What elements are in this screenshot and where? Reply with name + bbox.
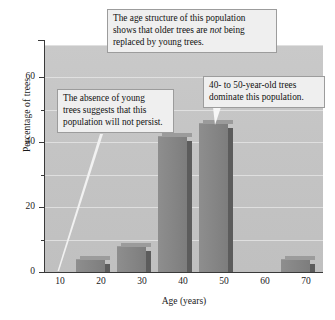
bar-40-side-face [187, 141, 192, 272]
y-tick-0 [39, 272, 44, 273]
y-axis-line [44, 40, 45, 273]
bar-30-side-face [146, 251, 151, 272]
x-tick-label-70: 70 [291, 277, 321, 287]
bar-50 [199, 123, 228, 272]
x-tick-label-10: 10 [45, 277, 75, 287]
bar-70-side-face [310, 264, 315, 272]
bar-20-side-face [105, 264, 110, 272]
bar-70 [281, 259, 310, 272]
annotation-left-callout: The absence of young trees suggests that… [57, 89, 174, 133]
bar-30 [117, 246, 146, 272]
y-tick-label-20: 20 [13, 202, 35, 212]
annotation-top-line2: shows that older trees are not being [113, 25, 271, 37]
bar-40 [158, 136, 187, 272]
x-tick-label-20: 20 [86, 277, 116, 287]
y-tick-10 [41, 240, 45, 241]
bar-50-side-face [228, 128, 233, 272]
y-tick-label-40: 40 [13, 137, 35, 147]
annotation-right-line2: dominate this population. [209, 92, 319, 104]
annotation-top-line3: replaced by young trees. [113, 37, 271, 49]
bar-20 [76, 259, 105, 272]
annotation-right-callout: 40- to 50-year-old trees dominate this p… [203, 76, 325, 108]
bar-20-top-face [80, 256, 110, 260]
annotation-left-line1: The absence of young [63, 93, 168, 105]
x-axis-title: Age (years) [45, 296, 323, 306]
figure-bar-chart-age-structure: Percentage of trees [0, 0, 335, 320]
x-tick-label-40: 40 [168, 277, 198, 287]
y-tick-20 [39, 207, 44, 208]
y-tick-60 [39, 77, 44, 78]
annotation-top-callout: The age structure of this population sho… [107, 9, 277, 53]
y-axis-title: Percentage of trees [22, 40, 32, 190]
y-tick-40 [39, 142, 44, 143]
annotation-top-line2-b: being [222, 25, 245, 35]
x-axis-line [44, 272, 323, 273]
annotation-top-line1: The age structure of this population [113, 13, 271, 25]
annotation-left-line2: trees suggests that this [63, 105, 168, 117]
annotation-right-line1: 40- to 50-year-old trees [209, 80, 319, 92]
x-tick-label-50: 50 [209, 277, 239, 287]
y-tick-30 [41, 175, 45, 176]
annotation-top-line2-a: shows that older trees are [113, 25, 210, 35]
y-tick-label-0: 0 [13, 267, 35, 277]
y-axis-top-cap [38, 40, 45, 41]
annotation-left-line3: population will not persist. [63, 117, 168, 129]
bar-40-top-face [162, 133, 192, 137]
bar-50-top-face [203, 120, 233, 124]
x-tick-label-30: 30 [127, 277, 157, 287]
x-tick-label-60: 60 [250, 277, 280, 287]
bar-70-top-face [285, 256, 315, 260]
y-tick-label-60: 60 [13, 72, 35, 82]
y-tick-50 [41, 110, 45, 111]
annotation-top-emphasis: not [210, 25, 222, 35]
bar-30-top-face [121, 243, 151, 247]
